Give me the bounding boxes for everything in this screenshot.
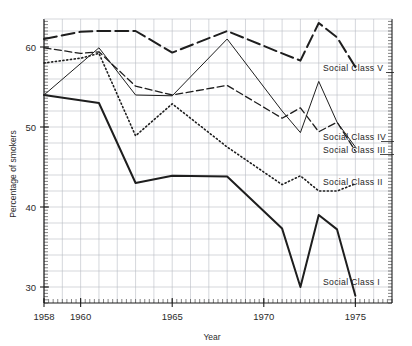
- y-tick-label: 40: [25, 202, 36, 213]
- x-tick-label: 1970: [253, 311, 274, 322]
- x-tick-label: 1975: [345, 311, 366, 322]
- y-tick-label: 30: [25, 282, 36, 293]
- chart-container: 30405060 19581960196519701975 Social Cla…: [0, 0, 412, 346]
- x-tick-label: 1960: [70, 311, 91, 322]
- series-label-social-class-iv: Social Class IV: [323, 132, 386, 142]
- x-tick-label: 1958: [33, 311, 54, 322]
- x-axis-title: Year: [203, 332, 220, 342]
- line-chart: 30405060 19581960196519701975 Social Cla…: [0, 0, 412, 346]
- y-tick-label: 60: [25, 42, 36, 53]
- chart-background: [0, 0, 412, 346]
- x-tick-label: 1965: [162, 311, 183, 322]
- series-label-social-class-i: Social Class I: [323, 277, 380, 287]
- series-label-social-class-ii: Social Class II: [323, 177, 383, 187]
- y-tick-label: 50: [25, 122, 36, 133]
- series-label-social-class-v: Social Class V: [323, 63, 383, 73]
- y-axis-title: Percentage of smokers: [8, 130, 18, 217]
- series-label-social-class-iii: Social Class III: [323, 145, 385, 155]
